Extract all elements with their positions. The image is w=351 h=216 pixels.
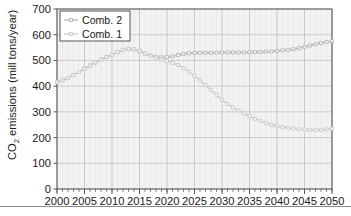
y-axis-title-prefix: CO — [6, 143, 18, 160]
series-marker — [281, 126, 284, 129]
bottom-divider-rule — [0, 206, 351, 207]
series-marker — [226, 102, 229, 105]
series-marker — [221, 98, 224, 101]
series-marker — [155, 56, 158, 59]
series-marker — [89, 64, 92, 67]
series-marker — [188, 52, 191, 55]
series-marker — [232, 51, 235, 54]
series-marker — [325, 128, 328, 131]
y-tick-label: 0 — [45, 183, 51, 195]
series-marker — [248, 115, 251, 118]
series-marker — [199, 79, 202, 82]
y-tick-label: 600 — [32, 29, 51, 41]
series-marker — [303, 45, 306, 48]
series-marker — [67, 76, 70, 79]
series-marker — [303, 128, 306, 131]
co2-emissions-line-chart: 0100200300400500600700 20002005201020152… — [0, 0, 351, 216]
series-marker — [281, 49, 284, 52]
series-marker — [254, 51, 257, 54]
series-marker — [292, 127, 295, 130]
series-marker — [193, 51, 196, 54]
series-marker — [149, 54, 152, 57]
y-tick-label: 700 — [32, 3, 51, 15]
series-marker — [270, 50, 273, 53]
series-marker — [287, 48, 290, 51]
series-marker — [265, 121, 268, 124]
series-marker — [215, 51, 218, 54]
legend[interactable]: Comb. 2Comb. 1 — [60, 11, 130, 41]
legend-swatch-marker — [70, 19, 73, 22]
series-marker — [320, 128, 323, 131]
y-tick-label: 300 — [32, 106, 51, 118]
series-marker — [127, 47, 130, 50]
series-marker — [199, 51, 202, 54]
series-marker — [254, 117, 257, 120]
series-marker — [100, 58, 103, 61]
y-axis-title-suffix: emissions (mill tons/year) — [6, 9, 18, 139]
series-marker — [61, 79, 64, 82]
series-marker — [171, 62, 174, 65]
series-marker — [210, 89, 213, 92]
series-marker — [265, 50, 268, 53]
series-marker — [287, 126, 290, 129]
series-marker — [177, 64, 180, 67]
y-tick-label: 200 — [32, 132, 51, 144]
series-marker — [248, 51, 251, 54]
series-marker — [182, 53, 185, 56]
series-marker — [215, 93, 218, 96]
series-marker — [276, 49, 279, 52]
y-tick-label: 100 — [32, 157, 51, 169]
series-marker — [325, 40, 328, 43]
series-marker — [133, 48, 136, 51]
y-axis: 0100200300400500600700 — [32, 3, 57, 195]
series-marker — [309, 128, 312, 131]
series-marker — [221, 51, 224, 54]
series-marker — [259, 50, 262, 53]
series-marker — [171, 55, 174, 58]
series-marker — [237, 109, 240, 112]
series-marker — [166, 60, 169, 63]
series-marker — [116, 51, 119, 54]
series-marker — [94, 61, 97, 64]
y-tick-label: 500 — [32, 54, 51, 66]
series-marker — [166, 56, 169, 59]
series-marker — [204, 84, 207, 87]
series-marker — [298, 47, 301, 50]
y-axis-title: CO2 emissions (mill tons/year) — [6, 9, 21, 160]
series-marker — [309, 44, 312, 47]
figure-container: 0100200300400500600700 20002005201020152… — [0, 0, 351, 216]
legend-swatch-marker — [70, 33, 73, 36]
series-marker — [331, 40, 334, 43]
series-marker — [210, 51, 213, 54]
series-marker — [243, 51, 246, 54]
series-marker — [243, 112, 246, 115]
series-marker — [331, 127, 334, 130]
series-marker — [237, 51, 240, 54]
series-marker — [226, 51, 229, 54]
series-marker — [160, 58, 163, 61]
series-marker — [111, 53, 114, 56]
series-marker — [138, 50, 141, 53]
series-marker — [122, 48, 125, 51]
series-marker — [276, 125, 279, 128]
series-marker — [78, 71, 81, 74]
series-marker — [72, 74, 75, 77]
series-marker — [204, 51, 207, 54]
series-marker — [105, 56, 108, 59]
legend-label: Comb. 1 — [82, 28, 122, 40]
series-marker — [83, 67, 86, 70]
series-marker — [182, 67, 185, 70]
legend-label: Comb. 2 — [82, 14, 122, 26]
y-tick-label: 400 — [32, 80, 51, 92]
series-marker — [177, 54, 180, 57]
series-marker — [232, 106, 235, 109]
series-marker — [292, 48, 295, 51]
series-marker — [56, 81, 59, 84]
series-marker — [259, 120, 262, 123]
series-marker — [314, 129, 317, 132]
series-marker — [144, 52, 147, 55]
series-marker — [314, 43, 317, 46]
series-marker — [188, 70, 191, 73]
series-marker — [298, 128, 301, 131]
svg-text:CO2 emissions (mill tons/year): CO2 emissions (mill tons/year) — [6, 9, 21, 160]
